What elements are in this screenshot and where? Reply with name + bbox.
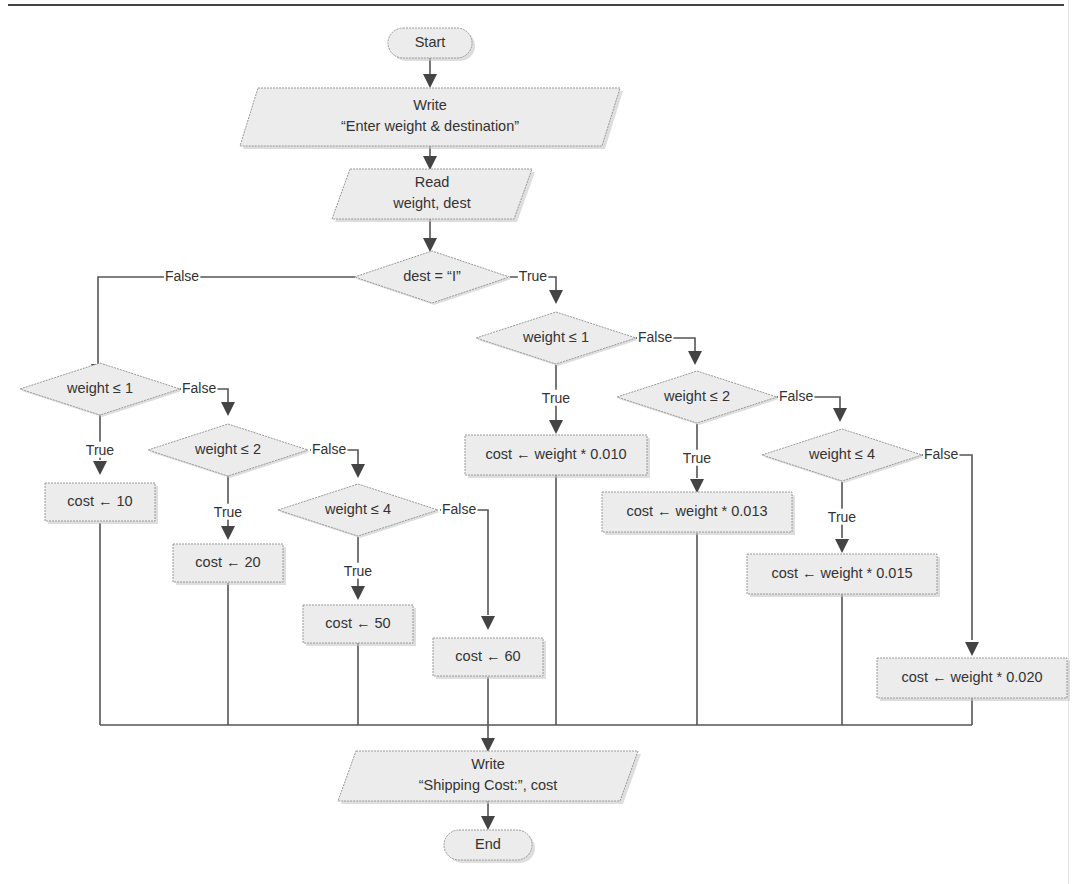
arrow-head-icon — [549, 290, 563, 304]
arrow-head-icon — [481, 616, 495, 630]
action-cost-20-label: cost ← 20 — [195, 554, 260, 570]
decision-int-weight-1: weight ≤ 1 — [476, 312, 638, 366]
action-cost-50: cost ← 50 — [303, 605, 416, 646]
branch-label: False — [924, 446, 958, 462]
branch-label: True — [542, 390, 570, 406]
action-cost-50-label: cost ← 50 — [325, 615, 390, 631]
action-cost-rate-020-label: cost ← weight * 0.020 — [901, 669, 1042, 685]
decision-dom-weight-1-label: weight ≤ 1 — [66, 380, 133, 396]
action-cost-rate-010: cost ← weight * 0.010 — [465, 435, 650, 478]
decision-dom-weight-4: weight ≤ 4 — [278, 484, 440, 538]
start-terminal: Start — [388, 28, 475, 61]
write-result-node: Write“Shipping Cost:”, cost — [338, 751, 641, 804]
branch-label: False — [182, 380, 216, 396]
arrow-head-icon — [351, 464, 365, 478]
arrow-head-icon — [221, 402, 235, 416]
arrow-head-icon — [221, 526, 235, 540]
action-cost-20: cost ← 20 — [173, 544, 286, 585]
branch-label: True — [214, 504, 242, 520]
write-prompt-node: Write“Enter weight & destination” — [240, 88, 623, 149]
branch-label: True — [683, 450, 711, 466]
decision-dest-label: dest = “I” — [403, 268, 461, 284]
connector-int-i3-false — [922, 455, 972, 640]
action-cost-rate-015-label: cost ← weight * 0.015 — [771, 565, 912, 581]
branch-label: True — [828, 509, 856, 525]
connector-dest-false — [98, 277, 355, 370]
write-result-node-line: “Shipping Cost:”, cost — [419, 777, 558, 793]
write-result-node-line: Write — [471, 756, 505, 772]
read-input-node-line: Read — [415, 174, 450, 190]
arrow-head-icon — [481, 738, 495, 752]
branch-label: True — [344, 563, 372, 579]
write-prompt-node-line: Write — [413, 97, 447, 113]
action-cost-60-label: cost ← 60 — [455, 648, 520, 664]
flowchart-canvas: StartWrite“Enter weight & destination”Re… — [0, 0, 1083, 884]
arrow-head-icon — [833, 408, 847, 422]
branch-label: True — [519, 268, 547, 284]
start-terminal-label: Start — [415, 34, 446, 50]
decision-dom-weight-1: weight ≤ 1 — [20, 363, 182, 417]
arrow-head-icon — [549, 420, 563, 434]
arrow-head-icon — [423, 238, 437, 252]
read-input-node-line: weight, dest — [392, 195, 470, 211]
arrow-head-icon — [423, 156, 437, 170]
branch-label: False — [442, 501, 476, 517]
branch-label: False — [779, 388, 813, 404]
write-prompt-node-line: “Enter weight & destination” — [341, 118, 519, 134]
branch-label: False — [638, 329, 672, 345]
arrow-head-icon — [351, 586, 365, 600]
action-cost-rate-013-label: cost ← weight * 0.013 — [626, 503, 767, 519]
action-cost-rate-013: cost ← weight * 0.013 — [602, 492, 795, 535]
action-cost-10: cost ← 10 — [45, 483, 158, 524]
decision-dest: dest = “I” — [355, 251, 512, 305]
branch-label: False — [312, 441, 346, 457]
action-cost-rate-010-label: cost ← weight * 0.010 — [485, 446, 626, 462]
decision-dom-weight-4-label: weight ≤ 4 — [324, 501, 391, 517]
decision-int-weight-2: weight ≤ 2 — [617, 371, 779, 425]
decision-dom-weight-2: weight ≤ 2 — [148, 424, 310, 478]
arrow-head-icon — [690, 479, 704, 493]
action-cost-60: cost ← 60 — [433, 638, 546, 679]
arrow-head-icon — [965, 642, 979, 656]
decision-int-weight-4: weight ≤ 4 — [762, 429, 924, 483]
arrow-head-icon — [423, 74, 437, 88]
arrow-head-icon — [835, 539, 849, 553]
action-cost-rate-020: cost ← weight * 0.020 — [877, 658, 1070, 701]
arrow-head-icon — [93, 461, 107, 475]
action-cost-rate-015: cost ← weight * 0.015 — [747, 554, 940, 597]
decision-int-weight-1-label: weight ≤ 1 — [522, 329, 589, 345]
end-terminal: End — [444, 830, 535, 863]
arrow-head-icon — [481, 816, 495, 830]
arrow-head-icon — [688, 351, 702, 365]
decision-dom-weight-2-label: weight ≤ 2 — [194, 441, 261, 457]
decision-int-weight-4-label: weight ≤ 4 — [808, 446, 875, 462]
action-cost-10-label: cost ← 10 — [67, 493, 132, 509]
branch-label: False — [165, 268, 199, 284]
connector-dom-d3-false — [440, 510, 488, 615]
end-terminal-label: End — [475, 836, 501, 852]
read-input-node: Readweight, dest — [332, 169, 535, 222]
branch-label: True — [86, 442, 114, 458]
decision-int-weight-2-label: weight ≤ 2 — [663, 388, 730, 404]
